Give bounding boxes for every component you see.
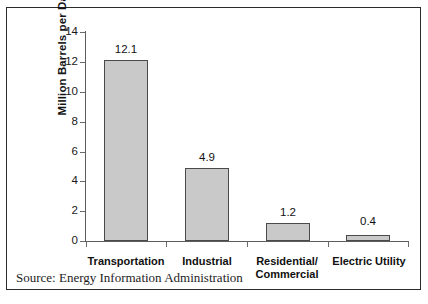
y-tick-label: 12: [52, 56, 78, 68]
y-tick-mark: [80, 32, 85, 33]
source-note: Source: Energy Information Administratio…: [16, 270, 243, 286]
x-tick-mark: [166, 242, 167, 247]
y-tick-mark: [80, 181, 85, 182]
bar-value-label: 0.4: [338, 216, 398, 228]
bar-value-label: 1.2: [258, 207, 318, 219]
x-tick-mark: [247, 242, 248, 247]
bar-value-label: 12.1: [96, 44, 156, 56]
y-tick-mark: [80, 241, 85, 242]
bar-transportation[interactable]: [104, 60, 148, 241]
bar-residential-commercial[interactable]: [266, 223, 310, 241]
y-tick-mark: [80, 92, 85, 93]
category-line-1: Residential/: [245, 255, 329, 268]
chart-figure: Million Barrels per Day 14 12 10 8 6 4 2…: [0, 0, 428, 304]
y-tick-label: 4: [52, 175, 78, 187]
y-tick-label: 0: [52, 235, 78, 247]
x-category-label-industrial: Industrial: [166, 255, 248, 268]
x-category-label-transportation: Transportation: [82, 255, 170, 268]
y-tick-mark: [80, 122, 85, 123]
y-tick-label: 8: [52, 116, 78, 128]
y-tick-label: 6: [52, 146, 78, 158]
x-tick-mark: [328, 242, 329, 247]
y-tick-mark: [80, 211, 85, 212]
x-category-label-electric-utility: Electric Utility: [326, 255, 412, 268]
category-line-1: Transportation: [82, 255, 170, 268]
y-tick-mark: [80, 152, 85, 153]
bar-industrial[interactable]: [185, 168, 229, 241]
y-axis-line: [85, 31, 86, 242]
category-line-1: Electric Utility: [326, 255, 412, 268]
y-tick-label: 10: [52, 86, 78, 98]
y-tick-label: 14: [52, 26, 78, 38]
x-tick-mark: [408, 242, 409, 247]
x-tick-mark: [86, 242, 87, 247]
y-tick-label: 2: [52, 205, 78, 217]
category-line-2: Commercial: [245, 268, 329, 281]
bar-value-label: 4.9: [177, 152, 237, 164]
bar-electric-utility[interactable]: [346, 235, 390, 241]
y-tick-label-group: 14 12 10 8 6 4 2 0: [48, 0, 78, 304]
category-line-1: Industrial: [166, 255, 248, 268]
y-tick-mark: [80, 62, 85, 63]
x-category-label-residential-commercial: Residential/ Commercial: [245, 255, 329, 281]
